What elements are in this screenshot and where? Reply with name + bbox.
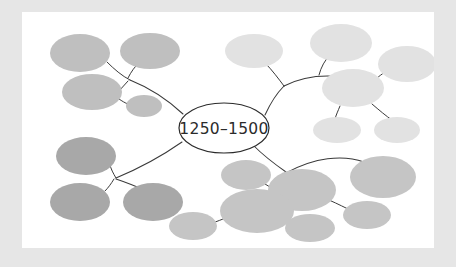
connector-top-left-to-node-1 (107, 62, 130, 80)
topic-node-bottom-right-2[interactable] (350, 156, 416, 198)
topic-node-top-left-4[interactable] (126, 95, 162, 117)
topic-node-group-bottom-right (169, 156, 416, 242)
topic-node-bottom-right-4[interactable] (220, 189, 294, 233)
topic-node-top-right-1[interactable] (225, 34, 283, 68)
topic-node-top-left-3[interactable] (62, 74, 122, 110)
topic-node-top-right-6[interactable] (374, 117, 420, 143)
topic-node-bottom-left-2[interactable] (50, 183, 110, 221)
topic-node-bottom-right-5[interactable] (169, 212, 217, 240)
diagram-canvas: 1250–1500 (22, 12, 434, 248)
topic-node-top-right-5[interactable] (313, 117, 361, 143)
connector-top-right-to-node-1 (266, 64, 284, 86)
topic-node-group-top-left (50, 33, 180, 117)
connector-node-4-to-node-6 (372, 104, 392, 120)
topic-node-bottom-right-6[interactable] (285, 214, 335, 242)
topic-node-bottom-left-1[interactable] (56, 137, 116, 175)
diagram-page: 1250–1500 (0, 0, 456, 267)
connector-bottom-left-to-node-2 (105, 179, 114, 191)
topic-node-top-right-2[interactable] (310, 24, 372, 62)
topic-node-top-right-4[interactable] (322, 69, 384, 107)
topic-node-bottom-right-3[interactable] (221, 160, 271, 190)
center-node-label: 1250–1500 (179, 120, 268, 138)
center-node[interactable]: 1250–1500 (179, 103, 269, 153)
topic-node-top-left-2[interactable] (120, 33, 180, 69)
topic-node-top-left-1[interactable] (50, 34, 110, 72)
mind-map-svg: 1250–1500 (22, 12, 434, 248)
connector-center-to-bottom-left (116, 142, 182, 178)
topic-node-bottom-left-3[interactable] (123, 183, 183, 221)
topic-node-top-right-3[interactable] (378, 46, 434, 82)
connector-bottom-left-to-node-1 (110, 165, 116, 178)
topic-node-bottom-right-7[interactable] (343, 201, 391, 229)
connector-center-to-top-right (265, 86, 284, 115)
